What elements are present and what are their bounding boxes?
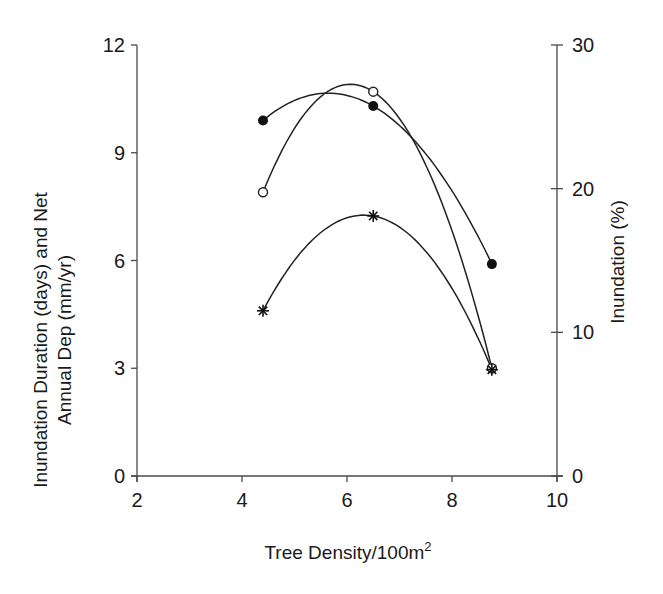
filled-circle-marker [258,115,268,125]
series-curve-open-circle [263,84,492,368]
open-circle-marker [259,188,268,197]
star-marker [257,305,269,317]
y-right-tick-label: 10 [572,321,594,343]
star-marker [367,210,379,222]
y-axis-title-right: Inundation (%) [607,200,628,324]
x-tick-label: 2 [131,489,142,511]
x-tick-label: 4 [236,489,247,511]
series-curve-filled-circle [263,93,492,264]
y-left-tick-label: 3 [114,357,125,379]
x-tick-label: 10 [546,489,568,511]
y-right-tick-label: 20 [572,178,594,200]
x-axis-title: Tree Density/100m2 [264,539,431,563]
svg-text:Inundation (%): Inundation (%) [607,200,628,324]
chart-canvas: 0369120102030246810 Tree Density/100m2 I… [0,0,663,594]
y-left-tick-label: 0 [114,465,125,487]
y-right-tick-label: 0 [572,465,583,487]
series-curve-star [263,215,492,370]
x-tick-label: 6 [341,489,352,511]
y-left-tick-label: 9 [114,142,125,164]
y-axis-title-line-2: Annual Dep (mm/yr) [54,255,75,425]
y-axis-title-line-1: Inundation Duration (days) and Net [30,191,51,487]
filled-circle-marker [368,101,378,111]
y-axis-title-left: Inundation Duration (days) and Net Annua… [30,191,75,487]
x-tick-label: 8 [446,489,457,511]
open-circle-marker [369,87,378,96]
filled-circle-marker [487,259,497,269]
y-left-tick-label: 6 [114,250,125,272]
data-curves [263,84,492,370]
y-right-tick-label: 30 [572,34,594,56]
y-left-tick-label: 12 [103,34,125,56]
axes: 0369120102030246810 [103,34,595,511]
